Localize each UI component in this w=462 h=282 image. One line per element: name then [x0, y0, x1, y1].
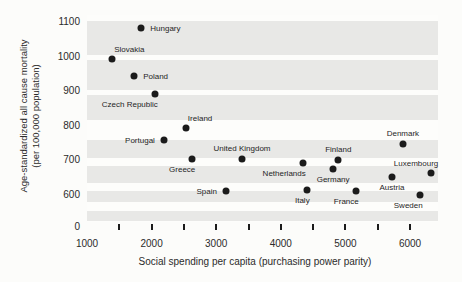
data-point-label: France [334, 197, 359, 206]
x-tick-label: 5000 [334, 238, 356, 249]
x-tick-mark [151, 224, 153, 230]
x-tick-label: 1000 [76, 238, 98, 249]
plot-stripe [87, 191, 438, 202]
data-point-label: Finland [325, 145, 351, 154]
x-tick-label: 3000 [205, 238, 227, 249]
data-point-dot [335, 157, 342, 164]
data-point-dot [151, 90, 158, 97]
data-point-dot [428, 170, 435, 177]
x-tick-mark [215, 224, 217, 230]
y-axis-zero-label: 0 [42, 221, 80, 232]
y-axis-title-line2: (per 100,000 population) [29, 39, 41, 192]
data-point-dot [109, 56, 116, 63]
data-point-dot [388, 173, 395, 180]
data-point-dot [160, 137, 167, 144]
y-tick-label: 1000 [42, 50, 80, 61]
plot-stripe [87, 211, 438, 221]
y-tick-label: 700 [42, 154, 80, 165]
y-axis-title: Age-standardized all cause mortality (pe… [18, 39, 41, 192]
data-point-label: Czech Republic [102, 100, 158, 109]
x-tick-mark [248, 224, 250, 230]
x-tick-mark [118, 224, 120, 230]
x-tick-label: 2000 [140, 238, 162, 249]
x-axis-title: Social spending per capita (purchasing p… [139, 256, 372, 267]
x-tick-mark [344, 224, 346, 230]
data-point-dot [352, 188, 359, 195]
data-point-label: Greece [169, 165, 195, 174]
y-tick-label: 1100 [42, 16, 80, 27]
plot-stripe [87, 60, 438, 90]
data-point-label: Poland [143, 72, 168, 81]
x-tick-mark [409, 224, 411, 230]
data-point-dot [189, 156, 196, 163]
data-point-label: Spain [196, 186, 216, 195]
data-point-label: Italy [295, 196, 310, 205]
x-tick-mark [377, 224, 379, 230]
data-point-dot [182, 125, 189, 132]
y-axis-title-line1: Age-standardized all cause mortality [18, 39, 30, 192]
data-point-label: Hungary [150, 23, 180, 32]
data-point-label: Slovakia [114, 45, 144, 54]
x-tick-label: 6000 [399, 238, 421, 249]
data-point-dot [222, 187, 229, 194]
data-point-label: Netherlands [263, 169, 306, 178]
y-tick-label: 900 [42, 85, 80, 96]
data-point-label: Denmark [387, 129, 419, 138]
x-tick-mark [280, 224, 282, 230]
data-point-dot [399, 140, 406, 147]
data-point-dot [239, 156, 246, 163]
data-point-dot [330, 166, 337, 173]
x-tick-label: 4000 [270, 238, 292, 249]
data-point-label: Germany [317, 175, 350, 184]
data-point-label: Ireland [188, 114, 212, 123]
data-point-dot [299, 159, 306, 166]
scatter-chart: Age-standardized all cause mortality (pe… [0, 0, 462, 282]
y-tick-label: 800 [42, 119, 80, 130]
data-point-dot [138, 24, 145, 31]
data-point-dot [303, 186, 310, 193]
data-point-dot [416, 191, 423, 198]
x-tick-mark [183, 224, 185, 230]
data-point-label: Portugal [125, 136, 155, 145]
y-tick-label: 600 [42, 189, 80, 200]
data-point-label: Luxembourg [394, 159, 438, 168]
data-point-label: Sweden [394, 201, 423, 210]
data-point-label: Austria [379, 183, 404, 192]
x-tick-mark [312, 224, 314, 230]
data-point-dot [131, 73, 138, 80]
data-point-label: United Kingdom [214, 144, 271, 153]
